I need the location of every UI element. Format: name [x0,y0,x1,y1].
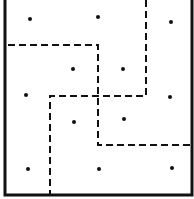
frame-border [5,0,192,195]
dot [96,15,100,19]
dashed-line-path-b [50,0,146,194]
diagram-canvas [0,0,194,199]
dot [170,166,174,170]
dot [71,67,75,71]
dot [169,20,173,24]
frame [5,0,192,195]
dot [72,120,76,124]
dot [122,117,126,121]
dot [28,17,32,21]
dot [26,167,30,171]
dot [121,67,125,71]
dot [24,93,28,97]
dot [168,95,172,99]
dashed-partition-lines [8,0,190,194]
dot [97,167,101,171]
partition-diagram [0,0,194,199]
